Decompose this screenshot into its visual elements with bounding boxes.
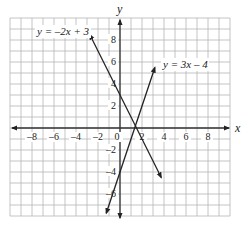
y-tick-label: –4 [105, 166, 116, 177]
x-tick-label: 4 [162, 131, 167, 142]
x-tick-label: 8 [206, 131, 211, 142]
x-tick-label: –6 [48, 131, 59, 142]
x-tick-label: 6 [184, 131, 189, 142]
y-tick-label: 6 [111, 56, 116, 67]
coordinate-plane-chart: xy –8–6–4–2024688642–2–4–6 y = –2x + 3y … [0, 0, 245, 225]
y-tick-label: 2 [111, 100, 116, 111]
equation-label-2: y = 3x – 4 [162, 58, 208, 70]
x-tick-label: –8 [26, 131, 37, 142]
x-axis-label: x [234, 121, 241, 135]
plotted-lines [90, 35, 162, 214]
y-tick-label: –2 [105, 144, 116, 155]
x-tick-label: 0 [115, 131, 120, 142]
y-axis-label: y [116, 2, 123, 16]
equation-labels: y = –2x + 3y = 3x – 4 [35, 25, 209, 71]
equation-label-1: y = –2x + 3 [36, 25, 90, 37]
y-tick-label: 8 [111, 34, 116, 45]
x-tick-label: –4 [70, 131, 81, 142]
x-tick-label: –2 [92, 131, 103, 142]
